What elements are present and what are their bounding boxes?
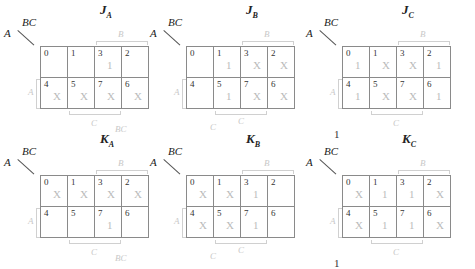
title-letter: K	[100, 131, 109, 146]
kmap-cell: 71	[95, 207, 122, 238]
cell-index: 6	[125, 79, 130, 89]
kmap-cell: 5X	[68, 78, 95, 109]
kmap-cell: 31	[241, 176, 268, 207]
kmap-cell: 6	[122, 207, 149, 238]
cell-value: 1	[409, 219, 415, 231]
b-group-label: B	[264, 29, 270, 39]
kmap-cell: 0X	[187, 176, 214, 207]
corner-divider-line	[163, 159, 180, 174]
corner-divider-line	[17, 159, 34, 174]
cell-index: 1	[373, 177, 378, 187]
a-group-bracket	[36, 79, 40, 109]
kmap-cell: 1	[68, 47, 95, 78]
cell-value: 1	[253, 188, 259, 200]
cell-value: 1	[107, 59, 113, 71]
cell-index: 0	[346, 177, 351, 187]
kmap-cell: 4	[41, 207, 68, 238]
cell-value: X	[134, 188, 142, 200]
cell-index: 7	[244, 208, 249, 218]
cell-index: 4	[190, 208, 195, 218]
cell-value: X	[199, 188, 207, 200]
b-group-bracket	[96, 41, 148, 45]
title-subscript: C	[411, 140, 416, 149]
cell-value: 1	[436, 59, 442, 71]
cell-index: 6	[271, 79, 276, 89]
cell-value: X	[134, 90, 142, 102]
kmap-cell: 41	[343, 78, 370, 109]
c-group-label: C	[238, 245, 244, 255]
cell-index: 0	[190, 177, 195, 187]
result-note: 1	[334, 257, 340, 269]
b-group-bracket	[398, 41, 450, 45]
cell-value: X	[107, 90, 115, 102]
kmap-cell: 6	[268, 207, 295, 238]
cell-value: X	[226, 188, 234, 200]
c-group-bracket	[215, 240, 267, 244]
b-group-bracket	[242, 41, 294, 45]
cell-value: 1	[253, 219, 259, 231]
kmap-cell: 7X	[241, 78, 268, 109]
kmap-cell: 3X	[95, 176, 122, 207]
kmap-cell: 6X	[424, 207, 451, 238]
title-subscript: A	[107, 11, 112, 20]
cell-value: X	[280, 90, 288, 102]
cell-index: 3	[400, 177, 405, 187]
cell-value: 1	[382, 188, 388, 200]
kmap-cell: 71	[241, 207, 268, 238]
kmap-cell: 2	[122, 47, 149, 78]
kmap-cell: 1X	[214, 176, 241, 207]
cell-index: 6	[427, 208, 432, 218]
kmap-cell: 1X	[68, 176, 95, 207]
a-group-label: A	[28, 87, 34, 97]
cell-index: 7	[98, 79, 103, 89]
cell-index: 2	[427, 177, 432, 187]
b-group-label: B	[118, 158, 124, 168]
kmap-cell: 4X	[41, 78, 68, 109]
map-title: JA	[100, 2, 112, 20]
kmap-cell: 31	[95, 47, 122, 78]
b-group-bracket	[96, 170, 148, 174]
c-group-bracket	[69, 111, 121, 115]
a-group-label: A	[28, 216, 34, 226]
cell-index: 3	[244, 177, 249, 187]
kmap-cell: 0	[41, 47, 68, 78]
cell-value: X	[80, 90, 88, 102]
kmap-cell: 51	[370, 207, 397, 238]
cell-index: 5	[71, 79, 76, 89]
cell-value: X	[355, 219, 363, 231]
kmap-cell: 6X	[122, 78, 149, 109]
c-group-label: C	[91, 118, 97, 128]
cell-index: 1	[217, 48, 222, 58]
c-group-label: C	[238, 116, 244, 126]
cell-index: 5	[373, 79, 378, 89]
kmap-cell: 4X	[343, 207, 370, 238]
bc-label: BC	[115, 124, 127, 134]
c-group-bracket	[371, 111, 423, 115]
cell-value: 1	[382, 219, 388, 231]
kmap-cell: 61	[424, 78, 451, 109]
cell-index: 5	[71, 208, 76, 218]
kmap-cell: 3X	[241, 47, 268, 78]
cell-value: X	[409, 90, 417, 102]
cell-index: 5	[217, 79, 222, 89]
corner-divider-line	[17, 30, 34, 45]
kmap-grid: 011X3X21415X7X61	[342, 46, 451, 109]
kmap-cell: 0X	[343, 176, 370, 207]
cell-index: 1	[217, 177, 222, 187]
kmap-cell: 5X	[214, 207, 241, 238]
row-variable-label: A	[306, 27, 313, 39]
kmap-cell: 5	[68, 207, 95, 238]
a-group-bracket	[182, 208, 186, 238]
cell-index: 0	[346, 48, 351, 58]
cell-index: 2	[271, 48, 276, 58]
c-group-bracket	[371, 240, 423, 244]
cell-index: 3	[400, 48, 405, 58]
cell-value: X	[253, 59, 261, 71]
kmap-cell: 7X	[397, 78, 424, 109]
title-subscript: B	[253, 11, 258, 20]
cell-value: X	[53, 188, 61, 200]
c-group-label: C	[91, 247, 97, 257]
kmap-grid: 0113X2X4517X6X	[186, 46, 295, 109]
kmap-cell: 4	[187, 78, 214, 109]
kmap-cell: 6X	[268, 78, 295, 109]
